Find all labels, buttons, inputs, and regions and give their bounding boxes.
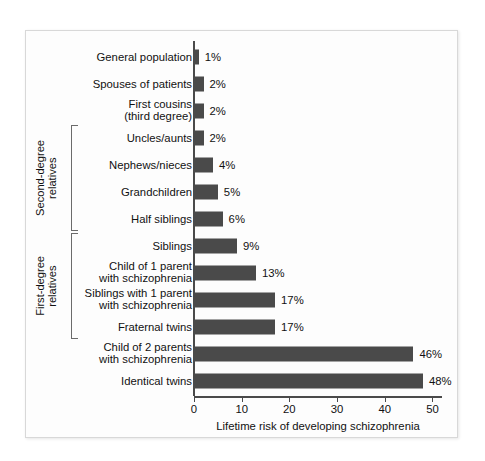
category-label: Spouses of patients [32,77,192,90]
chart-row: General population1% [26,43,457,70]
group-label-wrap: Second-degree relatives [32,125,72,231]
value-axis-vertical-line [193,41,195,396]
bar [194,130,204,145]
bar-value-label: 2% [210,132,226,144]
chart-row: Nephews/nieces4% [26,151,457,178]
bar [194,184,218,199]
group-label-second-degree-relatives: Second-degree relatives [34,140,70,216]
bar [194,157,213,172]
axis-tick [289,398,290,402]
bar-value-label: 9% [243,240,259,252]
axis-tick [337,398,338,402]
category-label: Identical twins [32,374,192,387]
bar [194,346,413,361]
axis-tick [385,398,386,402]
chart-row: Child of 1 parent with schizophrenia13% [26,259,457,286]
bar-value-label: 6% [229,213,245,225]
group-bracket-first-degree-relatives [71,233,78,339]
axis-tick-label: 30 [331,403,344,415]
axis-tick-label: 0 [191,403,197,415]
axis-tick-label: 10 [235,403,248,415]
x-axis-title: Lifetime risk of developing schizophreni… [194,420,442,432]
bar [194,292,275,307]
chart-row: Spouses of patients2% [26,70,457,97]
bar-value-label: 48% [429,375,452,387]
chart-row: Siblings with 1 parent with schizophreni… [26,286,457,313]
bar-value-label: 5% [224,186,240,198]
chart-row: Identical twins48% [26,367,457,394]
bar [194,373,423,388]
chart-row: Half siblings6% [26,205,457,232]
category-label: Child of 2 parents with schizophrenia [32,341,192,366]
bar-value-label: 1% [205,51,221,63]
figure-frame: General population1%Spouses of patients2… [25,30,458,438]
chart-row: Siblings9% [26,232,457,259]
group-label-first-degree-relatives: First-degree relatives [34,256,70,316]
chart-row: Uncles/aunts2% [26,124,457,151]
bar-value-label: 2% [210,105,226,117]
axis-tick [432,398,433,402]
axis-tick [242,398,243,402]
category-label: First cousins (third degree) [32,98,192,123]
bar [194,319,275,334]
axis-tick [194,398,195,402]
bar-value-label: 17% [281,294,304,306]
bar-value-label: 13% [262,267,285,279]
bar [194,265,256,280]
axis-tick-label: 50 [426,403,439,415]
axis-tick-label: 40 [378,403,391,415]
bar-value-label: 4% [219,159,235,171]
bar [194,211,223,226]
bar-value-label: 17% [281,321,304,333]
bar [194,103,204,118]
chart-row: Grandchildren5% [26,178,457,205]
chart-row: First cousins (third degree)2% [26,97,457,124]
group-bracket-second-degree-relatives [71,125,78,231]
value-axis-line [194,396,442,398]
bar [194,76,204,91]
axis-tick-label: 20 [283,403,296,415]
category-label: General population [32,50,192,63]
plot-area: General population1%Spouses of patients2… [26,31,457,437]
group-label-wrap: First-degree relatives [32,233,72,339]
bar [194,238,237,253]
bar-value-label: 2% [210,78,226,90]
bar-value-label: 46% [419,348,442,360]
chart-row: Fraternal twins17% [26,313,457,340]
chart-row: Child of 2 parents with schizophrenia46% [26,340,457,367]
